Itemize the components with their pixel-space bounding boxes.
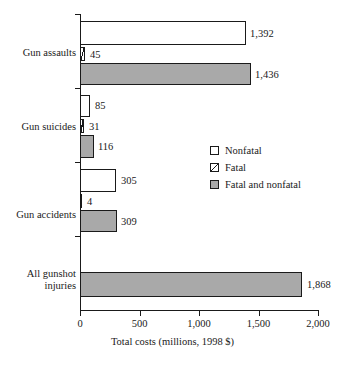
legend: Nonfatal Fatal Fatal and nonfatal: [210, 142, 301, 193]
bar-value-gun-accidents-fatal: 4: [87, 196, 92, 207]
bar-gun-suicides-nonfatal: [80, 95, 90, 117]
bar-value-all-gunshot-injuries-combined: 1,868: [307, 279, 331, 290]
y-axis-group-tick: [75, 236, 80, 237]
x-axis-tick: [199, 310, 200, 316]
x-axis-tick-label-0: 0: [50, 318, 110, 330]
x-axis-tick-label-2000: 2,000: [288, 318, 345, 330]
x-axis-tick-label-1500: 1,500: [229, 318, 289, 330]
bar-gun-suicides-fatal: [80, 119, 84, 133]
legend-item-fatal-and-nonfatal: Fatal and nonfatal: [210, 176, 301, 193]
bar-gun-assaults-combined: [80, 63, 251, 85]
legend-item-nonfatal: Nonfatal: [210, 142, 301, 159]
y-axis-group-tick: [75, 88, 80, 89]
x-axis-tick: [80, 310, 81, 316]
bar-value-gun-assaults-fatal: 45: [90, 49, 101, 60]
legend-swatch-fatal-and-nonfatal-icon: [210, 180, 219, 189]
legend-label-fatal: Fatal: [225, 162, 246, 173]
bar-value-gun-suicides-nonfatal: 85: [95, 100, 106, 111]
bar-gun-accidents-fatal: [80, 194, 82, 208]
category-label-text: Gun assaults: [23, 47, 76, 58]
bar-all-gunshot-injuries-combined: [80, 272, 302, 297]
x-axis-title: Total costs (millions, 1998 $): [0, 336, 345, 347]
legend-label-fatal-and-nonfatal: Fatal and nonfatal: [225, 179, 301, 190]
bar-gun-suicides-combined: [80, 135, 94, 158]
category-label-text: Gun suicides: [21, 121, 76, 132]
x-axis-tick: [318, 310, 319, 316]
category-label-text-line1: All gunshot: [4, 268, 76, 280]
bar-value-gun-accidents-nonfatal: 305: [121, 175, 137, 186]
bar-gun-accidents-nonfatal: [80, 169, 116, 192]
x-axis-tick: [259, 310, 260, 316]
legend-label-nonfatal: Nonfatal: [225, 145, 262, 156]
bar-value-gun-suicides-combined: 116: [98, 141, 113, 152]
legend-item-fatal: Fatal: [210, 159, 301, 176]
x-axis-tick-label-500: 500: [110, 318, 170, 330]
category-label-gun-accidents: Gun accidents: [4, 209, 76, 221]
category-label-all-gunshot-injuries: All gunshot injuries: [4, 268, 76, 291]
category-label-gun-suicides: Gun suicides: [8, 121, 76, 133]
bar-value-gun-assaults-nonfatal: 1,392: [250, 28, 274, 39]
bar-gun-assaults-nonfatal: [80, 21, 246, 45]
bar-gun-assaults-fatal: [80, 47, 85, 61]
category-label-text-line2: injuries: [4, 280, 76, 292]
bar-value-gun-suicides-fatal: 31: [89, 121, 100, 132]
y-axis-group-tick: [75, 162, 80, 163]
legend-swatch-nonfatal-icon: [210, 146, 219, 155]
x-axis-tick-label-1000: 1,000: [169, 318, 229, 330]
y-axis-group-tick: [75, 14, 80, 15]
bar-chart: Gun assaults Gun suicides Gun accidents …: [0, 0, 345, 365]
category-label-text: Gun accidents: [16, 209, 76, 220]
category-label-gun-assaults: Gun assaults: [8, 47, 76, 59]
bar-value-gun-accidents-combined: 309: [121, 216, 137, 227]
bar-gun-accidents-combined: [80, 210, 117, 232]
legend-swatch-fatal-icon: [210, 163, 219, 172]
bar-value-gun-assaults-combined: 1,436: [255, 69, 279, 80]
x-axis-tick: [140, 310, 141, 316]
